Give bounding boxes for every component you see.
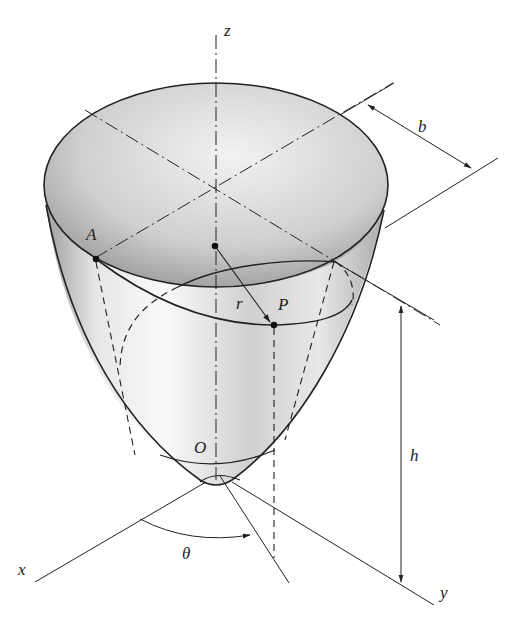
label-theta: θ (182, 544, 190, 563)
label-r: r (236, 294, 243, 313)
radial-line (220, 476, 289, 583)
b-extension-2 (385, 158, 498, 228)
point-A (93, 256, 100, 263)
b-dimension (368, 105, 471, 168)
label-A: A (85, 225, 97, 244)
label-x: x (17, 560, 26, 579)
label-z: z (223, 21, 231, 40)
label-O: O (194, 438, 206, 457)
label-y: y (438, 583, 448, 602)
x-axis (35, 482, 206, 582)
label-b: b (418, 117, 427, 136)
paraboloid-diagram: z b A r P O h θ x y (0, 0, 525, 625)
label-P: P (277, 295, 288, 314)
point-P (271, 322, 278, 329)
label-h: h (410, 446, 419, 465)
b-extension-1 (340, 83, 394, 115)
theta-arc (140, 519, 250, 538)
y-axis (232, 482, 434, 605)
point-center (212, 243, 219, 250)
